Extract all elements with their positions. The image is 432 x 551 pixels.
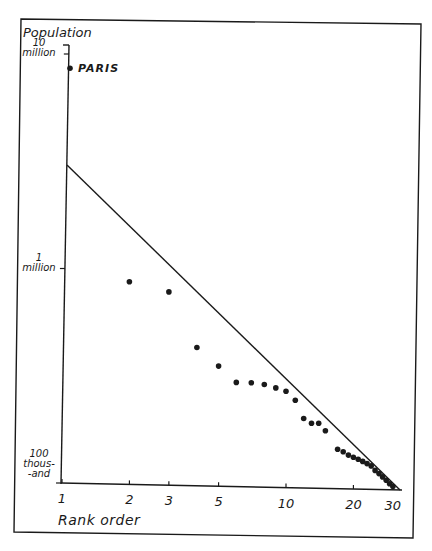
city-point [166, 289, 172, 295]
x-tick-label: 30 [385, 498, 402, 513]
rank-size-rule-line [67, 165, 400, 490]
x-axis-title: Rank order [58, 512, 141, 528]
city-point [194, 345, 200, 351]
city-point [390, 484, 396, 490]
y-tick-label: million [22, 47, 55, 58]
city-point [127, 279, 133, 285]
axes [61, 45, 402, 490]
city-point [316, 421, 322, 427]
city-point [335, 446, 341, 452]
y-axis-title: Population [23, 25, 92, 40]
x-axis-line [61, 483, 402, 490]
city-point [234, 380, 240, 386]
x-tick-label: 1 [58, 491, 66, 506]
city-point [293, 397, 299, 403]
rank-size-chart: 1235102030 10million1million100thous--an… [0, 0, 432, 551]
y-tick-label: million [22, 262, 55, 273]
y-tick-label: -and [28, 468, 51, 479]
city-point [67, 65, 73, 71]
city-point [249, 380, 255, 386]
city-point [309, 420, 315, 426]
city-point [262, 382, 268, 388]
city-point [283, 389, 289, 395]
city-point [301, 416, 307, 422]
city-point [351, 454, 357, 460]
x-tick-label: 5 [214, 494, 222, 509]
paris-annotation: PARIS [78, 62, 119, 75]
x-tick-label: 3 [165, 493, 173, 508]
x-tick-label: 2 [125, 492, 133, 507]
y-axis-line [61, 45, 69, 484]
city-point [368, 463, 374, 469]
city-point [273, 385, 279, 391]
city-point [346, 452, 352, 458]
x-tick-label: 10 [278, 496, 295, 511]
city-point [340, 449, 346, 455]
city-point [323, 428, 329, 434]
data-points [67, 65, 396, 489]
x-tick-label: 20 [345, 497, 362, 512]
city-point [216, 363, 222, 369]
